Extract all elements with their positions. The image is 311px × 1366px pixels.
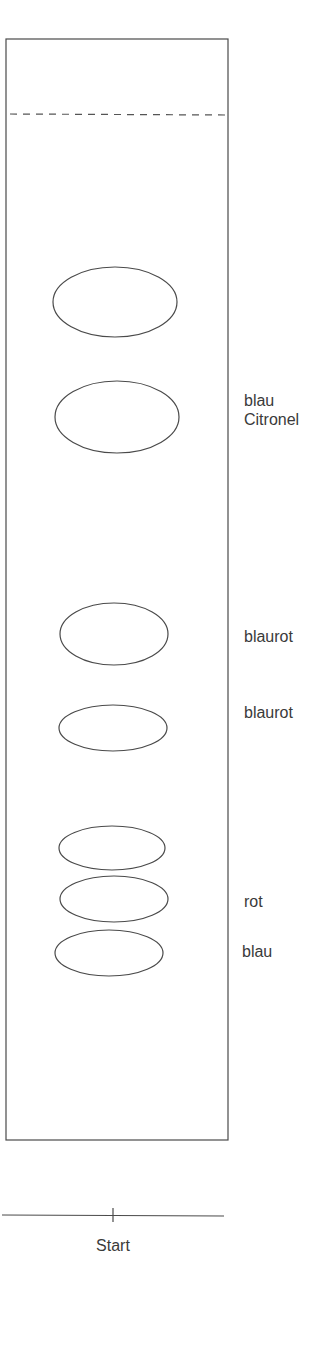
tlc-plate [6, 39, 228, 1140]
spot-3 [60, 603, 168, 665]
spot-4 [59, 705, 167, 751]
spot-5 [59, 826, 165, 870]
spot-7 [55, 930, 163, 976]
spot-label: blaurot [244, 627, 293, 646]
tlc-plate-diagram [0, 0, 311, 1366]
spot-label: rot [244, 892, 263, 911]
spot-6 [60, 876, 168, 922]
spot-2 [55, 381, 179, 453]
spot-label: blau [242, 942, 272, 961]
spot-label: blau Citronel [244, 391, 299, 429]
solvent-front-line [10, 114, 228, 115]
start-label: Start [83, 1237, 143, 1255]
spot-label: blaurot [244, 703, 293, 722]
spot-1 [53, 267, 177, 337]
